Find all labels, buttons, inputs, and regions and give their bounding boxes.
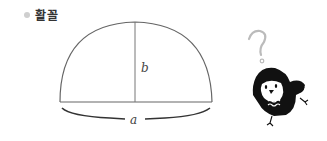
- height-label: b: [141, 61, 149, 75]
- brace-right: [145, 108, 210, 119]
- arc: [60, 22, 212, 102]
- owl-mascot-icon: [253, 68, 308, 126]
- segment-diagram: b a: [0, 0, 327, 141]
- brace-left: [62, 108, 125, 119]
- question-mark-icon: [249, 31, 265, 63]
- chord-label: a: [130, 113, 137, 127]
